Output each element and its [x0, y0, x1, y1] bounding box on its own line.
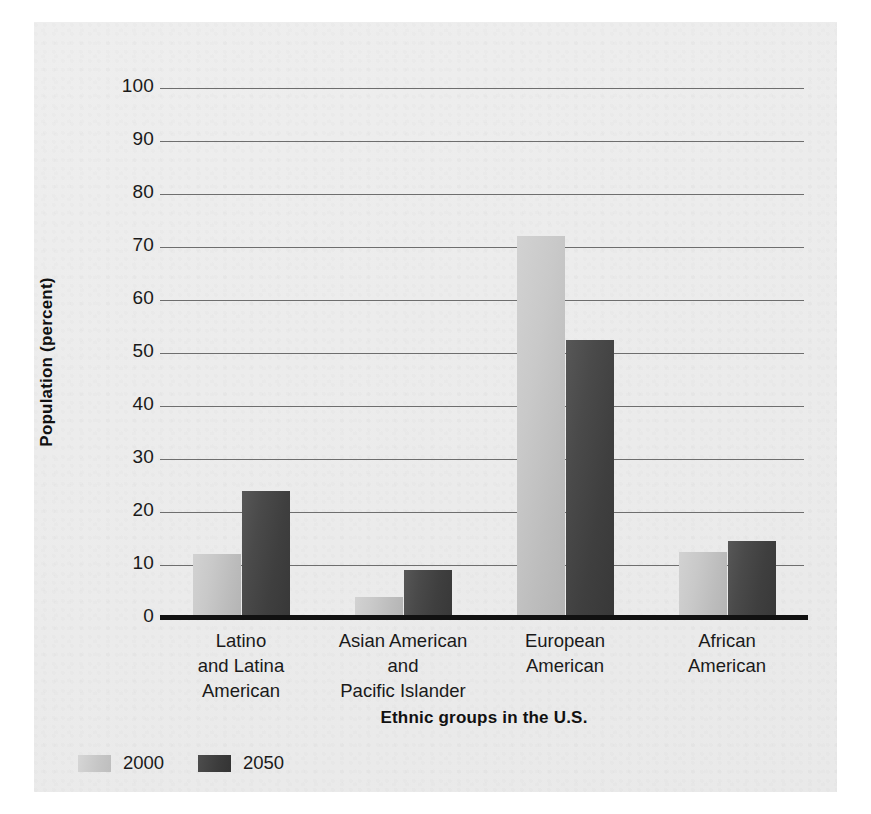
category-label-line: American	[646, 653, 808, 678]
bar-holder	[242, 88, 290, 618]
chart-page: Population (percent) 1009080706050403020…	[0, 0, 871, 814]
legend-swatch-icon	[198, 755, 231, 772]
category-label-line: American	[484, 653, 646, 678]
bar-2000-4	[679, 552, 727, 618]
category-label-line: Pacific Islander	[322, 678, 484, 703]
bar-holder	[679, 88, 727, 618]
category-label-line: Latino	[160, 628, 322, 653]
bar-holder	[566, 88, 614, 618]
bar-holder	[517, 88, 565, 618]
category-label-line: and Latina	[160, 653, 322, 678]
category-label: Asian AmericanandPacific Islander	[322, 628, 484, 703]
bar-2000-1	[193, 554, 241, 618]
legend-label: 2000	[123, 752, 164, 774]
category-label-line: Asian American	[322, 628, 484, 653]
x-axis-line	[160, 615, 808, 620]
bar-holder	[193, 88, 241, 618]
legend-swatch-icon	[78, 755, 111, 772]
category-label-line: American	[160, 678, 322, 703]
legend-item-2050[interactable]: 2050	[198, 752, 284, 774]
category-label-line: African	[646, 628, 808, 653]
bar-2050-1	[242, 491, 290, 618]
bar-holder	[355, 88, 403, 618]
bar-2050-2	[404, 570, 452, 618]
category-label: Latinoand LatinaAmerican	[160, 628, 322, 703]
legend-label: 2050	[243, 752, 284, 774]
legend-item-2000[interactable]: 2000	[78, 752, 164, 774]
category-label: EuropeanAmerican	[484, 628, 646, 678]
bar-holder	[728, 88, 776, 618]
category-label: AfricanAmerican	[646, 628, 808, 678]
bar-2050-3	[566, 340, 614, 618]
bar-2000-3	[517, 236, 565, 618]
bar-2050-4	[728, 541, 776, 618]
category-label-line: European	[484, 628, 646, 653]
bar-holder	[404, 88, 452, 618]
category-label-line: and	[322, 653, 484, 678]
plot-bars	[0, 0, 871, 618]
x-axis-label: Ethnic groups in the U.S.	[160, 708, 808, 728]
